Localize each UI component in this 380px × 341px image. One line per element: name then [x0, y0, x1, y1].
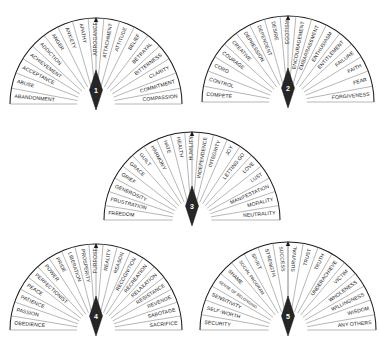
dial-number: 3 — [190, 203, 194, 210]
dial-chart-sheet: ABANDONMENTABUSEACCEPTANCEACHIEVEMENTADD… — [0, 0, 380, 341]
dial-number: 2 — [286, 85, 290, 92]
dial-segment-label: EGOTISM — [284, 20, 290, 44]
dial-number: 5 — [286, 313, 290, 320]
dial-segment-label: ARROGANCE — [92, 22, 98, 56]
dial-segment-label: PURPOSE — [92, 247, 98, 273]
dial-5: SECURITYSELF-WORTHSENSITIVITYSENSE OF BE… — [174, 216, 380, 341]
dial-number: 4 — [94, 313, 98, 320]
dial-segment-label: HUMILITY — [188, 136, 194, 161]
dial-number: 1 — [94, 87, 98, 94]
